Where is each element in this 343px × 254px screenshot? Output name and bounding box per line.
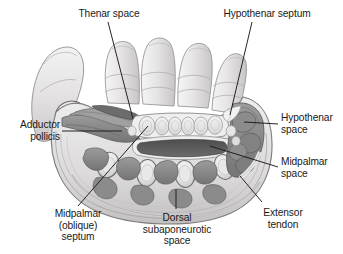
finger-middle — [141, 38, 175, 106]
finger-ring — [177, 43, 212, 108]
finger-index — [105, 41, 140, 104]
label-hypothenar-space: Hypothenar space — [281, 112, 343, 135]
label-hypothenar-septum: Hypothenar septum — [202, 8, 332, 20]
label-midpalmar-oblique-septum: Midpalmar (oblique) septum — [29, 208, 127, 243]
anatomy-figure: Thenar space Hypothenar septum Adductor … — [0, 0, 343, 254]
label-thenar-space: Thenar space — [55, 8, 163, 20]
label-dorsal-subaponeurotic-space: Dorsal subaponeurotic space — [128, 212, 226, 247]
fingers-group — [105, 38, 246, 114]
label-midpalmar-space: Midpalmar space — [281, 156, 343, 179]
label-adductor-pollicis: Adductor pollicis — [0, 119, 60, 142]
palm-cross-section — [51, 97, 272, 224]
label-extensor-tendon: Extensor tendon — [243, 207, 323, 230]
